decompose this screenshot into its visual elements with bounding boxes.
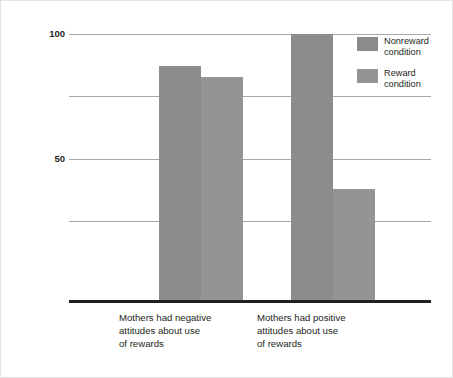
legend-swatch-reward-icon xyxy=(357,69,378,83)
legend-label-reward: Reward condition xyxy=(384,68,421,91)
x-category-label-negative: Mothers had negative attitudes about use… xyxy=(119,311,259,351)
legend: Nonreward condition Reward condition xyxy=(357,36,451,100)
y-tick-label-50: 50 xyxy=(31,154,65,164)
legend-item-nonreward: Nonreward condition xyxy=(357,36,451,59)
y-tick-label-100: 100 xyxy=(31,29,65,39)
legend-swatch-nonreward-icon xyxy=(357,37,378,51)
gridline-100 xyxy=(69,34,431,35)
bar-negative-reward xyxy=(201,77,243,301)
legend-label-nonreward: Nonreward condition xyxy=(384,36,429,59)
gridline-50 xyxy=(69,159,431,160)
bar-positive-reward xyxy=(333,189,375,301)
bar-positive-nonreward xyxy=(291,34,333,301)
bar-negative-nonreward xyxy=(159,66,201,301)
y-axis-tick-labels: 100 50 xyxy=(27,1,65,378)
x-category-label-positive: Mothers had positive attitudes about use… xyxy=(257,311,397,351)
legend-item-reward: Reward condition xyxy=(357,68,451,91)
x-axis-line xyxy=(69,300,431,303)
bar-chart-figure: Percentage of Children Who Helped 100 50… xyxy=(0,0,453,378)
gridline-25 xyxy=(69,221,431,222)
